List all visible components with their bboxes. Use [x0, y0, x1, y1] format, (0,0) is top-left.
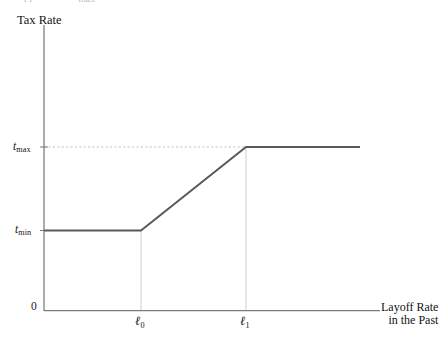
- figure-container: t tmax Tax Rate Layoff Rate in the Past …: [0, 0, 440, 348]
- y-axis-title: Tax Rate: [17, 13, 62, 27]
- x-axis-title: Layoff Rate in the Past: [381, 301, 438, 328]
- x-axis-title-line1: Layoff Rate: [381, 300, 438, 314]
- x-tick-label-l1: ℓ1: [240, 314, 249, 328]
- l0-subscript: 0: [141, 321, 145, 330]
- y-tick-label-tmax: tmax: [13, 140, 31, 153]
- tax-schedule-curve: [44, 147, 360, 231]
- tmin-subscript: min: [18, 228, 31, 237]
- l1-base: ℓ: [240, 314, 245, 328]
- l1-subscript: 1: [246, 321, 250, 330]
- origin-label: 0: [31, 300, 37, 313]
- chart-canvas: [0, 0, 440, 348]
- tmax-subscript: max: [16, 145, 30, 154]
- x-tick-label-l0: ℓ0: [135, 314, 144, 328]
- x-axis-title-line2: in the Past: [381, 314, 438, 327]
- y-tick-label-tmin: tmin: [15, 223, 31, 236]
- l0-base: ℓ: [135, 314, 140, 328]
